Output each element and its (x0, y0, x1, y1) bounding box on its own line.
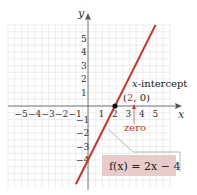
y-tick-label: 1 (81, 88, 87, 98)
x-tick-label: 4 (139, 109, 145, 119)
intercept-coordinates: (2, 0) (123, 92, 150, 103)
y-tick-label: −1 (76, 115, 89, 125)
x-tick-label: 3 (126, 109, 132, 119)
x-tick-label: −5 (15, 109, 29, 119)
y-tick-label: 4 (81, 47, 87, 57)
x-intercept-point (112, 103, 117, 108)
x-tick-label: 1 (99, 109, 105, 119)
function-label: f(x) = 2x − 4 (109, 160, 180, 173)
y-tick-label: 2 (81, 74, 87, 84)
x-axis-label: x (178, 108, 185, 121)
x-tick-label: −2 (55, 109, 68, 119)
y-tick-label: −3 (76, 142, 90, 152)
y-axis-label: y (77, 7, 85, 20)
y-tick-label: 3 (81, 61, 87, 71)
graph: x y −5−4−3−2−112345 54321−1−2−3−4 f(x) =… (0, 0, 197, 195)
x-tick-label: −4 (28, 109, 42, 119)
zero-arrow-icon (132, 104, 136, 109)
y-axis-arrow-icon (85, 13, 91, 20)
x-tick-label: 5 (153, 109, 159, 119)
y-tick-label: −2 (76, 128, 89, 138)
y-tick-label: 5 (81, 34, 87, 44)
zero-label: zero (124, 122, 146, 133)
x-tick-label: −3 (42, 109, 56, 119)
x-intercept-label: x-intercept (132, 78, 187, 89)
